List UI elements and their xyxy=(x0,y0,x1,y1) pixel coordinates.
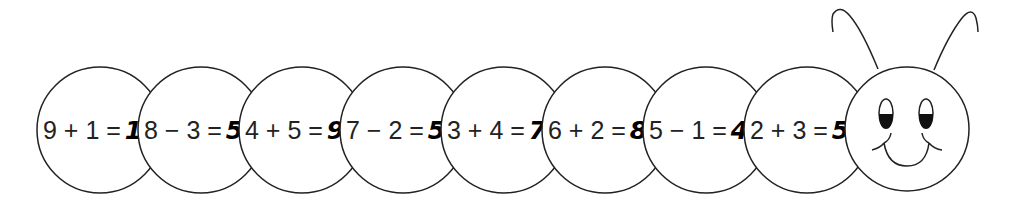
equation-text: 2 + 3 =5 xyxy=(750,116,849,145)
equation-text: 4 + 5 =9 xyxy=(245,116,344,145)
left-antenna-icon xyxy=(832,9,878,69)
right-eye-icon xyxy=(919,99,933,129)
equation-text: 8 − 3 =5 xyxy=(144,116,243,145)
equation-text: 5 − 1 =4 xyxy=(649,116,748,145)
equation-text: 7 − 2 =5 xyxy=(346,116,445,145)
equation-text: 6 + 2 =8 xyxy=(548,116,647,145)
caterpillar-illustration: 9 + 1 =108 − 3 =54 + 5 =97 − 2 =53 + 4 =… xyxy=(0,0,1013,200)
right-antenna-icon xyxy=(934,12,978,70)
caterpillar-head xyxy=(845,67,969,191)
left-eye-icon xyxy=(879,99,893,129)
equation-text: 3 + 4 =7 xyxy=(447,116,547,145)
